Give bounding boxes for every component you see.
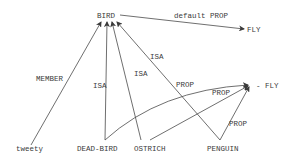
edge-ostrich-bird	[112, 22, 141, 140]
edge-label-isa-ostrich: ISA	[134, 70, 148, 78]
node-bird: BIRD	[97, 12, 116, 20]
edge-label-default-prop: default PROP	[174, 12, 229, 20]
edge-ostrich-notfly	[150, 86, 248, 140]
node-not-fly: - FLY	[256, 82, 279, 90]
edge-label-prop-ostrich: PROP	[212, 89, 231, 97]
node-dead-bird: DEAD-BIRD	[77, 145, 118, 153]
node-ostrich: OSTRICH	[134, 145, 166, 153]
semantic-network-diagram: BIRD FLY - FLY tweety DEAD-BIRD OSTRICH …	[0, 0, 292, 164]
edge-label-prop-deadbird: PROP	[176, 81, 195, 89]
edge-label-prop-penguin: PROP	[229, 120, 248, 128]
edge-penguin-bird	[117, 22, 220, 140]
node-fly: FLY	[247, 26, 261, 34]
node-tweety: tweety	[16, 145, 44, 153]
edge-label-isa-deadbird: ISA	[93, 82, 107, 90]
node-penguin: PENGUIN	[207, 145, 239, 153]
edge-label-member: MEMBER	[36, 75, 64, 83]
edge-tweety-bird	[31, 22, 101, 145]
edge-deadbird-bird	[105, 22, 107, 140]
edge-label-isa-penguin: ISA	[150, 53, 164, 61]
